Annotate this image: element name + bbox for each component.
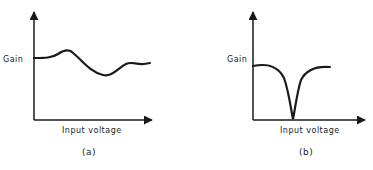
diagram-canvas (0, 0, 373, 170)
panel-a-gain-curve (34, 50, 150, 75)
panel-b-gain-curve (253, 65, 330, 119)
panel-b (253, 12, 365, 120)
panel-b-x-label: Input voltage (280, 126, 340, 135)
panel-a-caption: (a) (82, 147, 96, 157)
panel-a (34, 12, 152, 120)
panel-b-y-label: Gain (227, 55, 247, 64)
panel-a-y-label: Gain (3, 55, 23, 64)
panel-b-caption: (b) (299, 147, 313, 157)
panel-a-x-label: Input voltage (62, 126, 122, 135)
